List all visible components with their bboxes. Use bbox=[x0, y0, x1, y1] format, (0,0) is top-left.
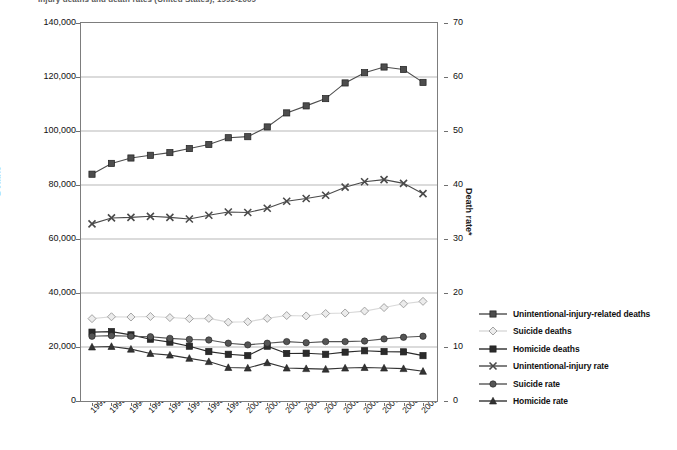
x-tick-mark bbox=[345, 403, 346, 406]
x-tick-mark bbox=[170, 403, 171, 406]
series-3 bbox=[89, 176, 427, 227]
legend-label: Homicide deaths bbox=[513, 344, 580, 354]
legend-label: Unintentional-injury-related deaths bbox=[513, 309, 650, 319]
legend-item[interactable]: Homicide deaths bbox=[478, 340, 676, 358]
x-tick-mark bbox=[365, 403, 366, 406]
x-tick-mark bbox=[384, 403, 385, 406]
legend-label: Homicide rate bbox=[513, 396, 568, 406]
x-tick-mark bbox=[131, 403, 132, 406]
series-4 bbox=[89, 332, 426, 348]
legend-item[interactable]: Unintentional-injury-related deaths bbox=[478, 305, 676, 323]
legend-item[interactable]: Suicide deaths bbox=[478, 323, 676, 341]
legend-item[interactable]: Homicide rate bbox=[478, 393, 676, 411]
x-tick-mark bbox=[248, 403, 249, 406]
legend-item[interactable]: Suicide rate bbox=[478, 375, 676, 393]
plot-svg bbox=[81, 23, 437, 401]
legend-marker-square-filled-icon bbox=[478, 343, 508, 355]
x-tick-mark bbox=[209, 403, 210, 406]
series-1 bbox=[88, 297, 427, 326]
x-tick-mark bbox=[150, 403, 151, 406]
x-tick-mark bbox=[111, 403, 112, 406]
legend-label: Unintentional-injury rate bbox=[513, 361, 609, 371]
series-0 bbox=[89, 64, 426, 177]
x-tick-mark bbox=[228, 403, 229, 406]
x-tick-mark bbox=[287, 403, 288, 406]
x-tick-mark bbox=[404, 403, 405, 406]
legend-marker-triangle-filled-icon bbox=[478, 395, 508, 407]
x-tick-mark bbox=[306, 403, 307, 406]
legend-marker-diamond-open-icon bbox=[478, 325, 508, 337]
x-tick-mark bbox=[92, 403, 93, 406]
x-tick-mark bbox=[423, 403, 424, 406]
legend-marker-cross-x-icon bbox=[478, 360, 508, 372]
legend-label: Suicide deaths bbox=[513, 326, 572, 336]
legend-item[interactable]: Unintentional-injury rate bbox=[478, 358, 676, 376]
legend-label: Suicide rate bbox=[513, 379, 560, 389]
legend: Unintentional-injury-related deathsSuici… bbox=[478, 305, 676, 410]
x-tick-mark bbox=[326, 403, 327, 406]
x-tick-mark bbox=[267, 403, 268, 406]
injury-deaths-chart: Injury deaths and death rates (United St… bbox=[0, 0, 677, 450]
legend-marker-square-filled-icon bbox=[478, 308, 508, 320]
legend-marker-circle-filled-icon bbox=[478, 378, 508, 390]
x-tick-mark bbox=[189, 403, 190, 406]
plot-area bbox=[80, 22, 438, 402]
